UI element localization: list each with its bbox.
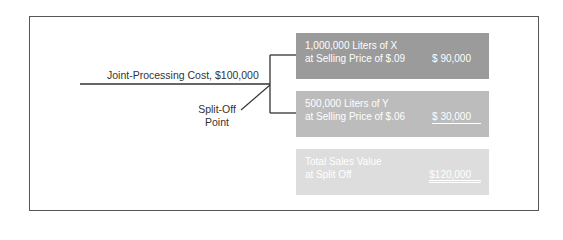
product-y-quantity: 500,000 Liters of Y [305,97,481,110]
product-x-sales-value: $ 90,000 [432,52,481,65]
product-x-quantity: 1,000,000 Liters of X [305,39,481,52]
total-sales-box: Total Sales Value at Split Off $120,000 [296,149,489,195]
product-x-box: 1,000,000 Liters of X at Selling Price o… [296,33,489,79]
joint-cost-label: Joint-Processing Cost, $100,000 [107,69,259,81]
product-x-price: at Selling Price of $.09 [305,52,405,65]
split-off-label-line1: Split-Off [182,103,252,116]
product-y-sales-value: $ 30,000 [432,111,481,124]
split-off-label-line2: Point [182,116,252,129]
total-sales-label-line1: Total Sales Value [305,155,481,168]
split-off-point-label: Split-Off Point [182,103,252,129]
total-sales-value: $120,000 [429,169,481,183]
product-y-price: at Selling Price of $.06 [305,110,405,123]
product-y-box: 500,000 Liters of Y at Selling Price of … [296,91,489,137]
total-sales-label-line2: at Split Off [305,168,352,181]
